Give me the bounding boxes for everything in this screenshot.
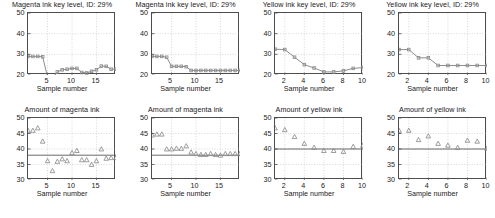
data-marker-triangle bbox=[154, 132, 159, 136]
data-marker-triangle bbox=[183, 144, 188, 148]
chart-panel-yellow-key-level-1: Yellow ink key level, ID: 29%20304050246… bbox=[247, 0, 371, 105]
x-axis-label: Sample number bbox=[247, 189, 371, 198]
data-marker-triangle bbox=[84, 158, 89, 162]
y-tick-label: 30 bbox=[17, 175, 25, 184]
x-axis-label: Sample number bbox=[371, 84, 495, 93]
y-tick-label: 30 bbox=[140, 49, 148, 58]
y-tick-label: 40 bbox=[387, 28, 395, 37]
data-marker-triangle bbox=[426, 134, 431, 138]
data-marker-triangle bbox=[31, 128, 36, 132]
y-tick-label: 35 bbox=[140, 159, 148, 168]
y-tick-label: 50 bbox=[140, 113, 148, 122]
data-marker-triangle bbox=[484, 146, 486, 150]
data-marker-triangle bbox=[435, 141, 440, 145]
y-tick-label: 20 bbox=[387, 70, 395, 79]
plot-area bbox=[151, 117, 239, 179]
y-tick-label: 50 bbox=[387, 113, 395, 122]
y-tick-label: 30 bbox=[140, 175, 148, 184]
data-marker-triangle bbox=[79, 158, 84, 162]
data-marker-triangle bbox=[114, 155, 116, 159]
plot-canvas bbox=[399, 118, 487, 180]
data-marker-triangle bbox=[35, 126, 40, 130]
plot-canvas bbox=[275, 13, 363, 75]
x-axis-label: Sample number bbox=[371, 189, 495, 198]
y-tick-label: 30 bbox=[264, 175, 272, 184]
y-tick-label: 30 bbox=[387, 175, 395, 184]
plot-area bbox=[398, 12, 486, 74]
x-axis-label: Sample number bbox=[124, 84, 248, 93]
y-tick-label: 35 bbox=[387, 159, 395, 168]
y-tick-label: 35 bbox=[264, 159, 272, 168]
y-tick-label: 50 bbox=[17, 113, 25, 122]
plot-canvas bbox=[152, 13, 240, 75]
y-tick-label: 20 bbox=[140, 70, 148, 79]
x-axis-label: Sample number bbox=[124, 189, 248, 198]
data-marker-triangle bbox=[445, 143, 450, 147]
data-marker-triangle bbox=[169, 147, 174, 151]
x-axis-label: Sample number bbox=[0, 84, 124, 93]
y-tick-label: 40 bbox=[140, 144, 148, 153]
data-marker-triangle bbox=[174, 146, 179, 150]
figure-grid: Magenta ink key level, ID: 29%2030405051… bbox=[0, 0, 495, 218]
plot-area bbox=[274, 117, 362, 179]
y-tick-label: 20 bbox=[17, 70, 25, 79]
data-marker-triangle bbox=[399, 128, 401, 132]
y-tick-label: 50 bbox=[387, 8, 395, 17]
chart-panel-yellow-key-level-2: Yellow ink key level, ID: 29%20304050246… bbox=[371, 0, 495, 105]
x-axis-label: Sample number bbox=[247, 84, 371, 93]
y-tick-label: 40 bbox=[140, 28, 148, 37]
data-marker-triangle bbox=[275, 126, 277, 130]
plot-canvas bbox=[399, 13, 487, 75]
y-tick-label: 30 bbox=[264, 49, 272, 58]
plot-area bbox=[27, 117, 115, 179]
data-marker-triangle bbox=[109, 155, 114, 159]
data-marker-triangle bbox=[60, 157, 65, 161]
chart-panel-magenta-key-level-1: Magenta ink key level, ID: 29%2030405051… bbox=[0, 0, 124, 105]
y-tick-label: 30 bbox=[387, 49, 395, 58]
y-tick-label: 40 bbox=[17, 144, 25, 153]
data-marker-triangle bbox=[55, 159, 60, 163]
data-marker-triangle bbox=[474, 139, 479, 143]
chart-panel-magenta-amount-1: Amount of magenta ink303540455051015Samp… bbox=[0, 105, 124, 210]
y-tick-label: 40 bbox=[264, 28, 272, 37]
y-tick-label: 50 bbox=[17, 8, 25, 17]
y-tick-label: 50 bbox=[264, 8, 272, 17]
y-tick-label: 30 bbox=[17, 49, 25, 58]
data-marker-triangle bbox=[416, 137, 421, 141]
y-tick-label: 45 bbox=[264, 128, 272, 137]
data-marker-triangle bbox=[361, 143, 363, 147]
data-marker-triangle bbox=[188, 150, 193, 154]
series-line bbox=[275, 49, 363, 72]
data-marker-triangle bbox=[94, 158, 99, 162]
chart-panel-yellow-amount-1: Amount of yellow ink3035404550246810Samp… bbox=[247, 105, 371, 210]
chart-panel-magenta-amount-2: Amount of magenta ink303540455051015Samp… bbox=[124, 105, 248, 210]
y-tick-label: 45 bbox=[17, 128, 25, 137]
y-tick-label: 45 bbox=[387, 128, 395, 137]
data-marker-triangle bbox=[104, 156, 109, 160]
data-marker-triangle bbox=[40, 139, 45, 143]
data-marker-triangle bbox=[203, 152, 208, 156]
y-tick-label: 40 bbox=[387, 144, 395, 153]
data-marker-triangle bbox=[292, 134, 297, 138]
plot-canvas bbox=[152, 118, 240, 180]
plot-area bbox=[151, 12, 239, 74]
y-tick-label: 20 bbox=[264, 70, 272, 79]
data-marker-triangle bbox=[179, 146, 184, 150]
data-marker-triangle bbox=[28, 128, 30, 132]
plot-canvas bbox=[28, 13, 116, 75]
data-marker-triangle bbox=[89, 162, 94, 166]
y-tick-label: 45 bbox=[140, 128, 148, 137]
data-marker-triangle bbox=[213, 152, 218, 156]
plot-canvas bbox=[275, 118, 363, 180]
y-tick-label: 50 bbox=[140, 8, 148, 17]
plot-canvas bbox=[28, 118, 116, 180]
data-marker-triangle bbox=[164, 147, 169, 151]
chart-panel-magenta-key-level-2: Magenta ink key level, ID: 29%2030405051… bbox=[124, 0, 248, 105]
plot-area bbox=[274, 12, 362, 74]
chart-panel-yellow-amount-2: Amount of yellow ink3035404550246810Samp… bbox=[371, 105, 495, 210]
data-marker-triangle bbox=[45, 158, 50, 162]
data-marker-triangle bbox=[159, 132, 164, 136]
data-marker-triangle bbox=[50, 168, 55, 172]
y-tick-label: 35 bbox=[17, 159, 25, 168]
y-tick-label: 50 bbox=[264, 113, 272, 122]
